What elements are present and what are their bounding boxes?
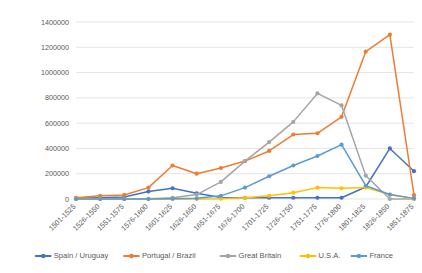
legend-marker-4	[306, 254, 311, 259]
data-point-marker	[315, 91, 319, 95]
data-point-marker	[267, 149, 271, 153]
data-point-marker	[364, 184, 368, 188]
legend-label-5[interactable]: France	[369, 251, 393, 260]
legend-marker-2	[129, 254, 134, 259]
series-line	[76, 93, 414, 199]
data-point-marker	[146, 197, 150, 201]
data-point-marker	[219, 194, 223, 198]
data-series-group	[74, 33, 416, 202]
data-point-marker	[219, 166, 223, 170]
data-point-marker	[122, 193, 126, 197]
legend-label-2[interactable]: Portugal / Brazil	[142, 251, 196, 260]
y-axis-tick-label: 1000000	[41, 68, 69, 77]
data-point-marker	[98, 197, 102, 201]
data-point-marker	[412, 196, 416, 200]
data-point-marker	[146, 189, 150, 193]
data-point-marker	[219, 180, 223, 184]
y-axis-tick-labels: 0200000400000600000800000100000012000001…	[41, 18, 69, 204]
data-point-marker	[364, 174, 368, 178]
x-axis-tick-labels: 1501-15251526-15501551-15751576-16001601…	[47, 202, 416, 233]
data-point-marker	[412, 169, 416, 173]
chart-legend: Spain / UruguayPortugal / BrazilGreat Br…	[36, 251, 393, 260]
data-point-marker	[243, 196, 247, 200]
data-point-marker	[74, 197, 78, 201]
data-point-marker	[195, 196, 199, 200]
data-point-marker	[195, 192, 199, 196]
data-point-marker	[195, 172, 199, 176]
y-axis-tick-label: 600000	[45, 119, 69, 128]
line-chart: 0200000400000600000800000100000012000001…	[0, 0, 422, 273]
data-point-marker	[315, 154, 319, 158]
data-point-marker	[291, 120, 295, 124]
data-point-marker	[315, 131, 319, 135]
legend-marker-5	[357, 254, 362, 259]
data-point-marker	[364, 50, 368, 54]
legend-label-1[interactable]: Spain / Uruguay	[54, 251, 109, 260]
data-point-marker	[339, 115, 343, 119]
data-point-marker	[339, 196, 343, 200]
data-point-marker	[388, 192, 392, 196]
data-point-marker	[291, 163, 295, 167]
data-point-marker	[267, 194, 271, 198]
data-point-marker	[170, 163, 174, 167]
data-point-marker	[243, 186, 247, 190]
data-point-marker	[388, 146, 392, 150]
data-point-marker	[243, 159, 247, 163]
series-line	[76, 145, 414, 199]
legend-marker-1	[41, 254, 46, 259]
legend-label-4[interactable]: U.S.A.	[318, 251, 340, 260]
chart-container: 0200000400000600000800000100000012000001…	[0, 0, 422, 273]
data-point-marker	[315, 196, 319, 200]
data-point-marker	[388, 197, 392, 201]
data-point-marker	[122, 197, 126, 201]
data-point-marker	[291, 132, 295, 136]
data-point-marker	[291, 191, 295, 195]
gridlines	[76, 22, 414, 199]
data-point-marker	[339, 143, 343, 147]
series-line	[76, 35, 414, 198]
series-line	[76, 148, 414, 198]
data-point-marker	[315, 186, 319, 190]
y-axis-tick-label: 800000	[45, 93, 69, 102]
data-point-marker	[267, 174, 271, 178]
y-axis-tick-label: 400000	[45, 144, 69, 153]
data-point-marker	[170, 197, 174, 201]
data-point-marker	[267, 140, 271, 144]
data-point-marker	[291, 196, 295, 200]
y-axis-tick-label: 1200000	[41, 43, 69, 52]
data-point-marker	[146, 186, 150, 190]
data-point-marker	[388, 33, 392, 37]
data-point-marker	[170, 186, 174, 190]
y-axis-tick-label: 0	[65, 195, 69, 204]
legend-marker-3	[226, 254, 231, 259]
y-axis-tick-label: 1400000	[41, 18, 69, 27]
data-point-marker	[339, 103, 343, 107]
data-point-marker	[339, 186, 343, 190]
y-axis-tick-label: 200000	[45, 169, 69, 178]
legend-label-3[interactable]: Great Britain	[239, 251, 282, 260]
